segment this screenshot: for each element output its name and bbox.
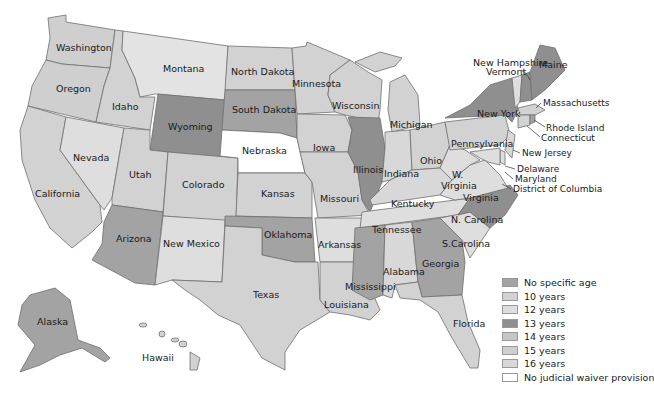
state-alaska[interactable] [18, 288, 110, 372]
state-arizona[interactable] [92, 205, 163, 285]
label-kansas: Kansas [261, 188, 295, 199]
label-illinois: Illinois [353, 164, 383, 175]
state-delaware[interactable] [500, 150, 505, 165]
legend-swatch [502, 278, 518, 287]
label-n-carolina: N. Carolina [451, 214, 503, 225]
legend-swatch [502, 373, 518, 382]
state-rhode-island[interactable] [530, 115, 535, 124]
label-iowa: Iowa [313, 142, 335, 153]
label-wyoming: Wyoming [168, 121, 213, 132]
legend-item-12-years: 12 years [502, 303, 654, 316]
label-wisconsin: Wisconsin [332, 100, 379, 111]
label-north-dakota: North Dakota [231, 66, 294, 77]
label-minnesota: Minnesota [292, 78, 341, 89]
label-kentucky: Kentucky [391, 198, 435, 209]
legend-item-16-years: 16 years [502, 357, 654, 370]
label-alabama: Alabama [383, 266, 425, 277]
label-missouri: Missouri [320, 193, 359, 204]
label-oklahoma: Oklahoma [264, 229, 312, 240]
label-s-carolina: S.Carolina [442, 238, 490, 249]
legend-swatch [502, 319, 518, 328]
legend-swatch [502, 292, 518, 301]
label-indiana: Indiana [384, 168, 419, 179]
label-colorado: Colorado [182, 179, 225, 190]
label-washington: Washington [56, 42, 112, 53]
state-massachusetts[interactable] [518, 104, 545, 115]
label-new-jersey: New Jersey [522, 148, 573, 158]
legend-label: 12 years [524, 304, 565, 315]
legend-item-no-judicial-waiver: No judicial waiver provision [502, 371, 654, 384]
label-nevada: Nevada [73, 152, 109, 163]
label-new-mexico: New Mexico [163, 238, 220, 249]
label-mississippi: Mississippi [345, 281, 396, 292]
legend-swatch [502, 346, 518, 355]
label-delaware: Delaware [517, 164, 560, 174]
label-tennessee: Tennessee [371, 224, 422, 235]
label-vermont: Vermont [486, 66, 526, 77]
label-georgia: Georgia [422, 258, 459, 269]
legend-item-10-years: 10 years [502, 290, 654, 303]
legend-label: No specific age [524, 277, 597, 288]
label-michigan: Michigan [390, 119, 433, 130]
label-hawaii: Hawaii [142, 352, 174, 363]
label-w-virginia-1: W. [452, 169, 463, 180]
legend-label: No judicial waiver provision [524, 372, 654, 383]
label-maryland: Maryland [515, 174, 557, 184]
label-arkansas: Arkansas [318, 239, 361, 250]
legend-label: 13 years [524, 318, 565, 329]
label-california: California [35, 188, 80, 199]
state-new-mexico[interactable] [155, 216, 225, 285]
label-w-virginia-2: Virginia [441, 180, 477, 191]
label-florida: Florida [453, 318, 485, 329]
legend-label: 14 years [524, 331, 565, 342]
legend-label: 10 years [524, 291, 565, 302]
label-dc: District of Columbia [513, 184, 602, 194]
legend-swatch [502, 332, 518, 341]
legend-label: 16 years [524, 358, 565, 369]
legend-item-15-years: 15 years [502, 344, 654, 357]
legend: No specific age 10 years 12 years 13 yea… [502, 276, 654, 384]
label-massachusetts: Massachusetts [543, 98, 610, 108]
label-idaho: Idaho [112, 101, 139, 112]
label-texas: Texas [252, 289, 279, 300]
legend-item-14-years: 14 years [502, 330, 654, 343]
label-utah: Utah [129, 169, 152, 180]
label-ohio: Ohio [420, 155, 442, 166]
state-maine[interactable] [530, 45, 565, 100]
label-oregon: Oregon [56, 83, 91, 94]
label-nebraska: Nebraska [242, 145, 287, 156]
label-south-dakota: South Dakota [232, 104, 296, 115]
label-new-york: New York [477, 108, 521, 119]
legend-item-13-years: 13 years [502, 317, 654, 330]
label-montana: Montana [163, 63, 204, 74]
legend-label: 15 years [524, 345, 565, 356]
label-virginia: Virginia [463, 192, 499, 203]
label-connecticut: Connecticut [541, 133, 595, 143]
label-arizona: Arizona [116, 233, 152, 244]
label-louisiana: Louisiana [324, 299, 369, 310]
label-alaska: Alaska [37, 316, 68, 327]
legend-swatch [502, 305, 518, 314]
label-pennsylvania: Pennsylvania [451, 138, 513, 149]
legend-item-no-specific-age: No specific age [502, 276, 654, 289]
label-rhode-island: Rhode Island [546, 123, 604, 133]
legend-swatch [502, 359, 518, 368]
